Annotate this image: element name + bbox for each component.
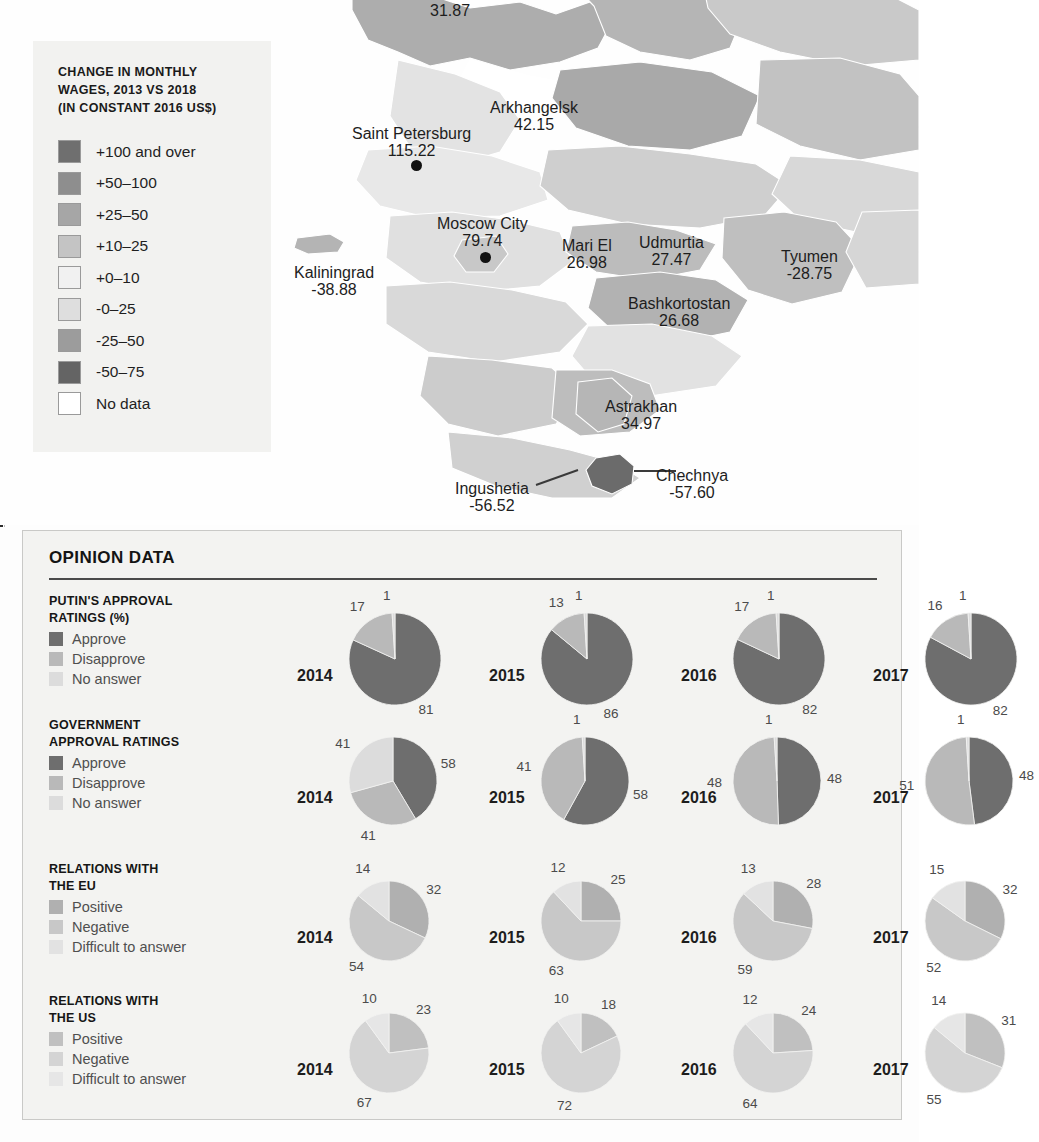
pie-value-label: 41 — [335, 736, 350, 751]
chart-title-line: THE US — [49, 1011, 96, 1025]
pie-value-label: 13 — [741, 861, 756, 876]
pie-value-label: 15 — [929, 862, 944, 877]
pie-chart — [873, 717, 1039, 849]
chart-title-line: THE EU — [49, 879, 96, 893]
map-legend: CHANGE IN MONTHLY WAGES, 2013 VS 2018 (I… — [33, 41, 271, 452]
map-region-name: Chechnya — [656, 467, 728, 484]
map-region-label: Ingushetia-56.52 — [455, 480, 529, 515]
legend-item-label: -25–50 — [96, 332, 144, 350]
chart-legend-swatch — [49, 920, 63, 934]
legend-item-label: No data — [96, 395, 150, 413]
pie-chart — [297, 993, 459, 1117]
chart-legend-item: Negative — [49, 1051, 219, 1067]
legend-swatch — [58, 235, 81, 258]
pie-slice — [733, 737, 778, 825]
pie-value-label: 13 — [549, 595, 564, 610]
legend-swatch — [58, 329, 81, 352]
pie-chart — [489, 717, 659, 849]
chart-legend-item: Positive — [49, 1031, 219, 1047]
chart-legend-item: No answer — [49, 671, 219, 687]
pie-value-label: 59 — [738, 962, 753, 977]
map-region-label: Tyumen-28.75 — [781, 248, 838, 283]
chart-title-line: RELATIONS WITH — [49, 862, 159, 876]
pie-chart-group: 2014584141201558411201648481201748511 — [219, 717, 903, 847]
pie-value-label: 1 — [959, 588, 967, 603]
pie-value-label: 58 — [441, 756, 456, 771]
chart-title-line: RATINGS (%) — [49, 611, 129, 625]
legend-item: -0–25 — [58, 294, 196, 326]
chart-legend-item: No answer — [49, 795, 219, 811]
map-region-value: 26.68 — [628, 312, 730, 329]
pie-slice — [969, 737, 1013, 825]
map-region-value: -56.52 — [455, 497, 529, 514]
legend-item-label: -0–25 — [96, 300, 136, 318]
pie-value-label: 1 — [575, 588, 583, 603]
pie-chart — [873, 861, 1035, 985]
map-region-label: Kaliningrad-38.88 — [294, 264, 374, 299]
legend-item-label: +50–100 — [96, 174, 157, 192]
legend-swatch — [58, 266, 81, 289]
pie-slice — [389, 1013, 429, 1053]
legend-swatch — [58, 203, 81, 226]
map-region-value: -57.60 — [656, 484, 728, 501]
pie-value-label: 67 — [357, 1095, 372, 1110]
chart-title-line: RELATIONS WITH — [49, 994, 159, 1008]
pie-slice — [777, 737, 821, 825]
chart-title: RELATIONS WITHTHE EU — [49, 861, 219, 895]
chart-title: RELATIONS WITHTHE US — [49, 993, 219, 1027]
chart-title: PUTIN'S APPROVALRATINGS (%) — [49, 593, 219, 627]
chart-legend-item: Disapprove — [49, 651, 219, 667]
legend-swatch — [58, 392, 81, 415]
chart-legend-label: Positive — [72, 1031, 123, 1047]
pie-value-label: 51 — [899, 778, 914, 793]
map-region-name: Ingushetia — [455, 480, 529, 497]
pie-value-label: 1 — [957, 712, 965, 727]
legend-item-label: +100 and over — [96, 143, 196, 161]
opinion-data-title: OPINION DATA — [49, 548, 175, 568]
legend-item-label: +10–25 — [96, 237, 148, 255]
chart-legend-label: Difficult to answer — [72, 939, 186, 955]
pie-value-label: 48 — [707, 775, 722, 790]
map-region-value: 26.98 — [562, 254, 612, 271]
map-region-value: 79.74 — [437, 232, 528, 249]
pie-value-label: 14 — [931, 993, 946, 1008]
legend-swatch — [58, 361, 81, 384]
chart-row-header: RELATIONS WITHTHE EUPositiveNegativeDiff… — [49, 861, 219, 955]
chart-legend-item: Positive — [49, 899, 219, 915]
pie-value-label: 58 — [633, 787, 648, 802]
chart-legend-swatch — [49, 652, 63, 666]
chart-legend-label: Disapprove — [72, 651, 145, 667]
legend-title-line-3: (IN CONSTANT 2016 US$) — [58, 101, 216, 115]
pie-chart — [297, 861, 459, 985]
legend-title-line-1: CHANGE IN MONTHLY — [58, 65, 197, 79]
chart-legend-item: Difficult to answer — [49, 1071, 219, 1087]
pie-value-label: 16 — [927, 598, 942, 613]
map-region-name: Udmurtia — [639, 234, 704, 251]
map-region-label: Arkhangelsk42.15 — [490, 99, 578, 134]
chart-legend-label: No answer — [72, 795, 141, 811]
map-region-value: 34.97 — [605, 415, 677, 432]
pie-value-label: 12 — [742, 992, 757, 1007]
chart-title-line: GOVERNMENT — [49, 718, 141, 732]
pie-chart — [489, 593, 663, 729]
map-region-value: 115.22 — [352, 142, 471, 159]
chart-legend-item: Difficult to answer — [49, 939, 219, 955]
pie-value-label: 31 — [1001, 1013, 1016, 1028]
opinion-data-panel: OPINION DATA PUTIN'S APPROVALRATINGS (%)… — [22, 530, 902, 1120]
map-region-label: 31.87 — [430, 2, 470, 19]
legend-item: +10–25 — [58, 231, 196, 263]
pie-value-label: 23 — [416, 1002, 431, 1017]
chart-legend-swatch — [49, 940, 63, 954]
pie-value-label: 25 — [611, 872, 626, 887]
pie-chart — [681, 593, 855, 729]
pie-value-label: 10 — [362, 991, 377, 1006]
chart-legend-swatch — [49, 1072, 63, 1086]
map-region-label: Mari El26.98 — [562, 237, 612, 272]
chart-legend-swatch — [49, 672, 63, 686]
pie-value-label: 48 — [827, 771, 842, 786]
chart-legend-label: Negative — [72, 1051, 129, 1067]
pie-value-label: 1 — [573, 712, 581, 727]
map-region-value: -38.88 — [294, 281, 374, 298]
chart-legend-swatch — [49, 1032, 63, 1046]
